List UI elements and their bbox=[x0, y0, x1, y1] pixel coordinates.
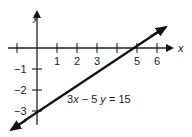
equation-line bbox=[24, 32, 158, 121]
x-tick-label: 1 bbox=[54, 55, 60, 67]
x-tick-label: 6 bbox=[154, 55, 160, 67]
x-tick-label: 3 bbox=[94, 55, 100, 67]
equation-label: 3x − 5 y = 15 bbox=[67, 93, 131, 105]
line-arrow-upper bbox=[150, 27, 166, 37]
x-tick-label: 5 bbox=[134, 55, 140, 67]
y-tick-label: −2 bbox=[14, 84, 27, 96]
line-arrow-lower bbox=[11, 120, 26, 130]
x-axis-label: x bbox=[177, 42, 184, 54]
eq-part3: = 15 bbox=[106, 93, 131, 105]
y-axis-label: y bbox=[32, 11, 40, 23]
y-tick-label: −3 bbox=[14, 105, 27, 117]
graph-canvas: 1 2 3 5 6 −1 −2 −3 x y 3x − 5 y = 15 bbox=[0, 0, 192, 137]
eq-part2: − 5 bbox=[79, 93, 101, 105]
x-tick-label: 2 bbox=[74, 55, 80, 67]
y-tick-label: −1 bbox=[14, 63, 27, 75]
